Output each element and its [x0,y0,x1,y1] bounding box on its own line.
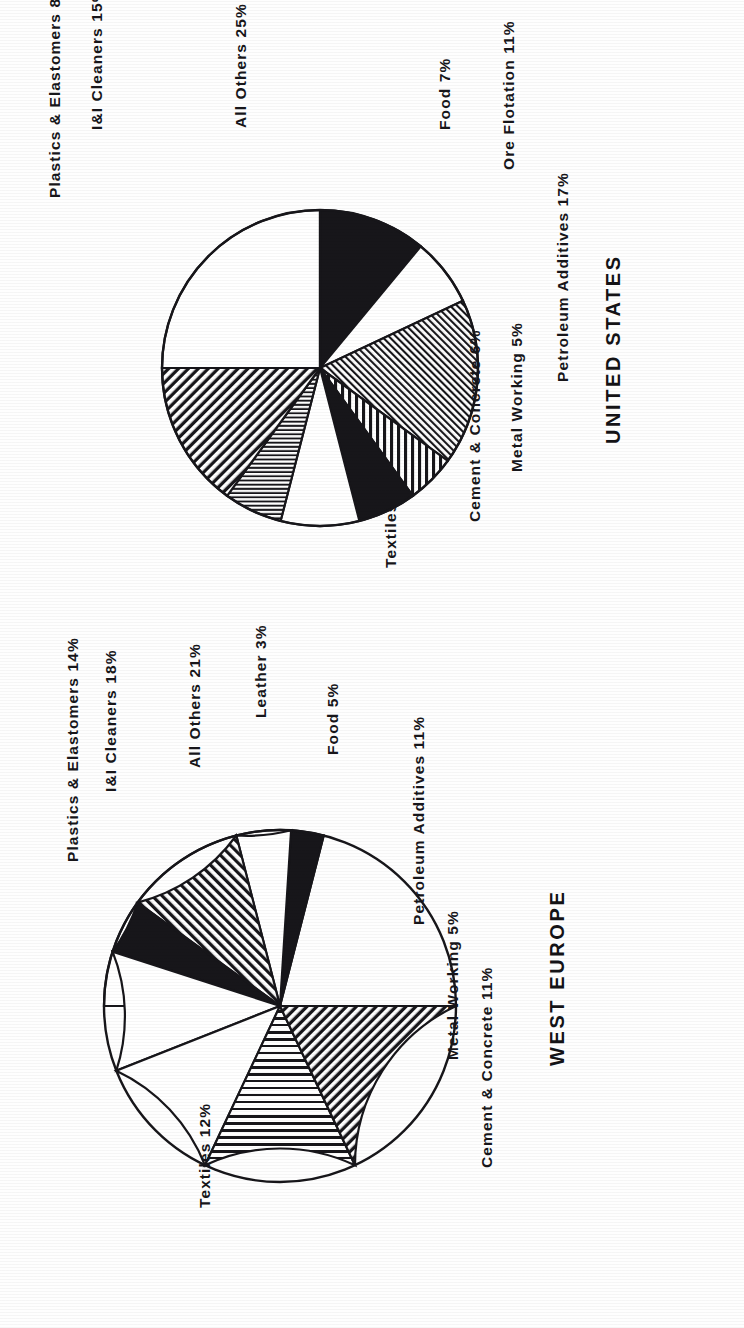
label-us-food: Food 7% [436,58,454,130]
label-us-all-others: All Others 25% [232,3,250,128]
label-we-textiles: Textiles 12% [196,1103,214,1208]
label-us-ii-cleaners: I&I Cleaners 15% [88,0,106,130]
label-us-textiles: Textiles 6% [382,473,400,568]
pie-chart-united-states [150,198,490,538]
label-us-cement-concrete: Cement & Concrete 6% [466,329,484,522]
scanned-page: WEST EUROPE Plastics & Elastomers 14% I&… [0,0,744,1328]
label-us-metal-working: Metal Working 5% [508,322,526,472]
label-we-ii-cleaners: I&I Cleaners 18% [102,649,120,792]
chart-title-west-europe: WEST EUROPE [546,890,569,1066]
label-us-ore-flotation: Ore Flotation 11% [500,20,518,170]
label-we-metal-working: Metal Working 5% [444,910,462,1060]
label-we-petroleum-additives: Petroleum Additives 11% [410,716,428,925]
united-states-pie-svg [150,198,490,538]
chart-title-united-states: UNITED STATES [602,254,625,444]
label-we-all-others: All Others 21% [186,643,204,768]
label-we-plastics-elastomers: Plastics & Elastomers 14% [64,637,82,862]
label-us-plastics-elastomers: Plastics & Elastomers 8% [46,0,64,198]
label-we-cement-concrete: Cement & Concrete 11% [478,967,496,1168]
label-us-petroleum-additives: Petroleum Additives 17% [554,172,572,382]
label-we-leather: Leather 3% [252,624,270,718]
slice-all-others [162,210,320,368]
rotated-figure-canvas: WEST EUROPE Plastics & Elastomers 14% I&… [0,0,744,1328]
label-we-food: Food 5% [324,683,342,755]
